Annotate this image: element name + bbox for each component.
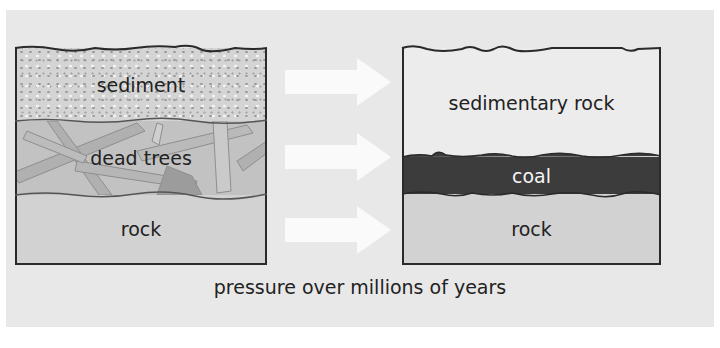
sedimentary-rock-label: sedimentary rock xyxy=(449,92,615,114)
arrow-icon xyxy=(285,206,391,254)
before-cross-section: sediment dead trees rock xyxy=(15,48,267,265)
coal-label: coal xyxy=(512,165,551,187)
coal-layer: coal xyxy=(404,157,659,194)
rock-label-after: rock xyxy=(511,218,551,240)
rock-label-before: rock xyxy=(121,218,161,240)
sediment-layer: sediment xyxy=(17,48,265,121)
rock-layer-before: rock xyxy=(17,195,265,263)
dead-trees-layer: dead trees xyxy=(17,121,265,195)
rock-layer-after: rock xyxy=(404,194,659,263)
dead-trees-label: dead trees xyxy=(90,147,192,169)
arrow-icon xyxy=(285,133,391,181)
arrow-icon xyxy=(285,58,391,106)
sedimentary-rock-layer: sedimentary rock xyxy=(404,48,659,157)
process-caption: pressure over millions of years xyxy=(0,276,720,298)
after-cross-section: sedimentary rock coal rock xyxy=(402,48,661,265)
sediment-label: sediment xyxy=(97,74,186,96)
